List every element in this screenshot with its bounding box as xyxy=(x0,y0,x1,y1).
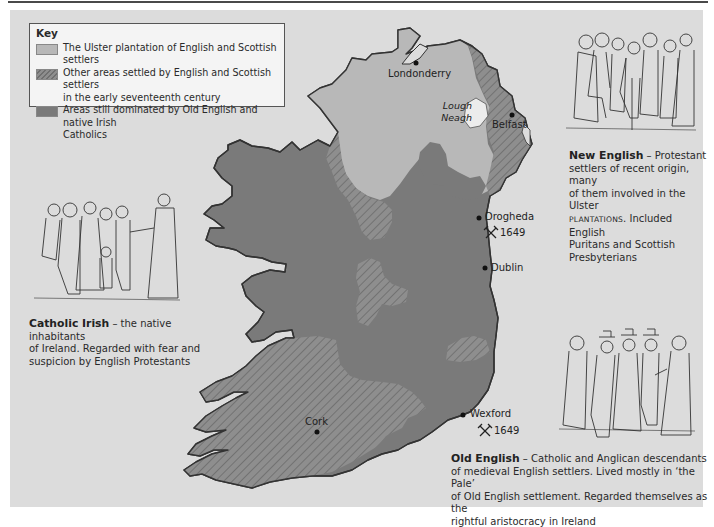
label-dublin: Dublin xyxy=(491,262,523,273)
new-english-illustration xyxy=(566,18,696,138)
old-english-illustration xyxy=(555,325,695,445)
dublin-dot xyxy=(483,266,488,271)
caption-title: New English xyxy=(569,149,643,162)
catholic-irish-illustration xyxy=(30,190,180,305)
key-title: Key xyxy=(36,27,278,40)
key-item-label: Areas still dominated by Old English and… xyxy=(63,104,278,142)
label-lough-neagh: LoughNeagh xyxy=(428,100,472,124)
label-londonderry: Londonderry xyxy=(388,68,451,79)
map-key: Key The Ulster plantation of English and… xyxy=(29,23,285,107)
key-item-ulster: The Ulster plantation of English and Sco… xyxy=(36,42,278,67)
label-cork: Cork xyxy=(305,416,328,427)
key-item-other-settled: Other areas settled by English and Scott… xyxy=(36,67,278,105)
catholic-swatch-icon xyxy=(36,106,58,117)
caption-catholic-irish: Catholic Irish – the native inhabitants … xyxy=(29,318,219,368)
londonderry-dot xyxy=(414,61,419,66)
cork-dot xyxy=(315,430,320,435)
hatched-swatch-icon xyxy=(36,69,58,80)
label-belfast: Belfast xyxy=(492,119,527,130)
battle-swords-icon-wexford xyxy=(478,424,492,436)
drogheda-dot xyxy=(477,216,482,221)
caption-title: Old English xyxy=(451,452,520,465)
key-item-catholic: Areas still dominated by Old English and… xyxy=(36,104,278,142)
caption-new-english: New English – Protestant settlers of rec… xyxy=(569,150,709,264)
wexford-dot xyxy=(461,413,466,418)
ulster-swatch-icon xyxy=(36,44,58,55)
key-item-label: The Ulster plantation of English and Sco… xyxy=(63,42,278,67)
caption-old-english: Old English – Catholic and Anglican desc… xyxy=(451,453,711,527)
belfast-dot xyxy=(510,113,515,118)
caption-title: Catholic Irish xyxy=(29,317,109,330)
label-drogheda-year: 1649 xyxy=(500,227,525,238)
label-wexford-year: 1649 xyxy=(494,425,519,436)
label-drogheda: Drogheda xyxy=(485,211,534,222)
label-wexford: Wexford xyxy=(470,408,511,419)
key-item-label: Other areas settled by English and Scott… xyxy=(63,67,278,105)
